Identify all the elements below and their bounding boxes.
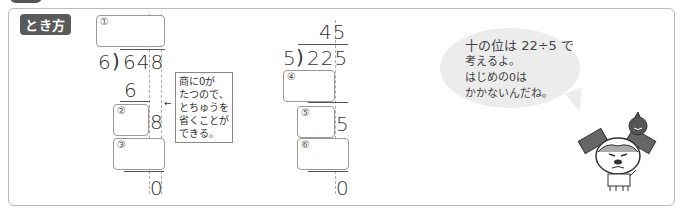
division-bracket: )	[112, 49, 120, 73]
answer-box-1[interactable]: ①	[96, 15, 165, 47]
remainder: 0	[336, 176, 349, 200]
arrow-icon: ←	[164, 98, 172, 108]
dividend: 648	[123, 50, 164, 74]
answer-box-5[interactable]: ⑤	[297, 106, 335, 138]
division-bracket: )	[296, 45, 304, 69]
step-value: 8	[150, 110, 163, 134]
step-value: 6	[124, 78, 137, 102]
answer-box-6[interactable]: ⑥	[297, 138, 349, 170]
solution-label: とき方	[20, 14, 71, 35]
answer-box-3[interactable]: ③	[113, 138, 165, 170]
remainder: 0	[150, 176, 163, 200]
note-box: 商に0が たつので、 とちゅうを 省くことが できる。	[175, 72, 233, 143]
quotient: 45	[319, 20, 346, 44]
division-bar	[298, 44, 348, 45]
speech-text: 十の位は 22÷5 で 考えるよ。 はじめの0は かかないんだね。	[465, 38, 574, 102]
subtraction-line	[124, 171, 164, 172]
step-value: 5	[336, 112, 349, 136]
answer-box-2[interactable]: ②	[113, 104, 149, 136]
subtraction-line	[308, 102, 348, 103]
divisor: 5	[283, 46, 296, 70]
subtraction-line	[120, 101, 150, 102]
dividend: 225	[307, 46, 348, 70]
divisor: 6	[98, 50, 111, 74]
subtraction-line	[308, 171, 348, 172]
section-tab-decoration	[10, 0, 42, 3]
answer-box-4[interactable]: ④	[283, 70, 335, 102]
dog-character-icon	[578, 112, 663, 192]
